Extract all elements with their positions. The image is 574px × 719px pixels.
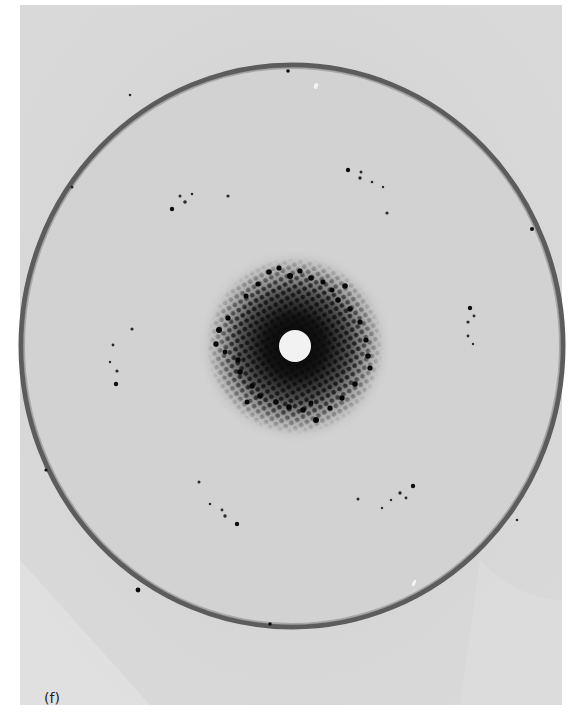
beam-stop	[279, 330, 311, 362]
panel-label: (f)	[44, 690, 60, 706]
diffraction-plate	[0, 0, 574, 719]
